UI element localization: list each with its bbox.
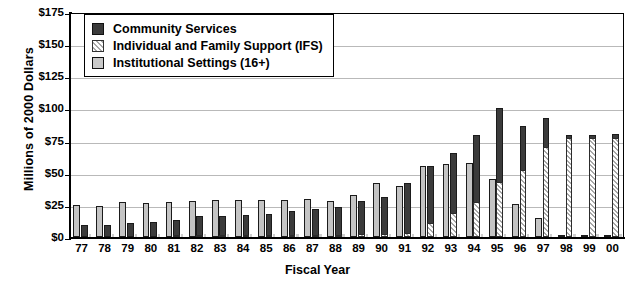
bar-institutional — [143, 203, 150, 237]
bar-institutional — [535, 218, 542, 237]
x-axis-tick-label: 81 — [162, 242, 185, 254]
bar-stack-community-ifs — [150, 222, 157, 237]
bar-spacer-marker — [227, 234, 229, 237]
x-axis-tick-label: 83 — [209, 242, 232, 254]
y-axis-tick-label: $50 — [8, 167, 64, 179]
x-axis-tick-label: 89 — [347, 242, 370, 254]
y-axis-tick — [65, 239, 71, 240]
x-axis-tick-label: 80 — [139, 242, 162, 254]
x-axis-tick-label: 79 — [116, 242, 139, 254]
bar-spacer-marker — [273, 234, 275, 237]
bar-stack-community-ifs — [404, 183, 411, 237]
bar-community-services — [404, 183, 411, 237]
x-axis-tick-label: 93 — [439, 242, 462, 254]
bar-group — [371, 14, 394, 237]
bar-institutional — [443, 164, 450, 237]
bar-stack-community-ifs — [312, 209, 319, 237]
x-axis-tick-label: 98 — [555, 242, 578, 254]
bar-ifs — [289, 235, 296, 237]
bar-stack-community-ifs — [427, 166, 434, 237]
bar-ifs — [566, 138, 573, 237]
bar-spacer-marker — [296, 234, 298, 237]
x-axis-tick-label: 85 — [255, 242, 278, 254]
bar-spacer-marker — [504, 234, 506, 237]
bar-institutional — [373, 183, 380, 237]
bar-stack-community-ifs — [496, 108, 503, 237]
bar-community-services — [381, 197, 388, 238]
bar-community-services — [127, 223, 134, 237]
bar-stack-community-ifs — [266, 214, 273, 237]
bar-ifs — [427, 223, 434, 237]
bar-institutional — [466, 163, 473, 237]
swatch-community-icon — [92, 23, 104, 35]
bar-stack-community-ifs — [127, 223, 134, 237]
bar-institutional — [258, 200, 265, 237]
bar-community-services — [266, 214, 273, 237]
bar-institutional — [327, 201, 334, 237]
bar-ifs — [589, 138, 596, 237]
bar-ifs — [612, 138, 619, 237]
y-axis-tick-label: $150 — [8, 38, 64, 50]
x-axis-tick-label: 96 — [509, 242, 532, 254]
bar-spacer-marker — [366, 234, 368, 237]
legend-label-community: Community Services — [113, 22, 237, 36]
bar-institutional — [119, 202, 126, 237]
bar-stack-community-ifs — [104, 225, 111, 237]
legend: Community Services Individual and Family… — [84, 14, 334, 77]
bar-ifs — [312, 235, 319, 237]
legend-label-ifs: Individual and Family Support (IFS) — [113, 39, 323, 53]
legend-item-ifs: Individual and Family Support (IFS) — [92, 37, 323, 54]
bar-ifs — [404, 233, 411, 238]
bar-group — [348, 14, 371, 237]
x-axis-tick-label: 88 — [324, 242, 347, 254]
bar-stack-community-ifs — [566, 135, 573, 237]
bar-stack-community-ifs — [243, 215, 250, 237]
bar-spacer-marker — [550, 234, 552, 237]
x-axis-tick-label: 77 — [70, 242, 93, 254]
bar-ifs — [543, 147, 550, 237]
bar-institutional — [604, 235, 611, 237]
bar-spacer-marker — [158, 234, 160, 237]
bar-institutional — [189, 201, 196, 237]
bar-institutional — [396, 186, 403, 237]
bar-group — [394, 14, 417, 237]
bar-ifs — [381, 234, 388, 237]
bar-ifs — [173, 235, 180, 237]
bar-spacer-marker — [389, 234, 391, 237]
bar-chart: Millions of 2000 Dollars $175$150$125$10… — [0, 0, 635, 288]
x-axis-tick-label: 94 — [462, 242, 485, 254]
legend-item-institutional: Institutional Settings (16+) — [92, 54, 323, 71]
bar-institutional — [489, 179, 496, 237]
legend-label-institutional: Institutional Settings (16+) — [113, 56, 270, 70]
bar-spacer-marker — [527, 234, 529, 237]
y-axis-tick-label: $100 — [8, 102, 64, 114]
bar-spacer-marker — [135, 234, 137, 237]
bar-ifs — [358, 234, 365, 237]
bar-spacer-marker — [596, 234, 598, 237]
bar-spacer-marker — [573, 234, 575, 237]
bar-institutional — [420, 166, 427, 237]
bar-community-services — [358, 201, 365, 237]
bar-spacer-marker — [619, 234, 621, 237]
bar-stack-community-ifs — [219, 216, 226, 237]
bar-institutional — [512, 204, 519, 237]
bar-ifs — [496, 182, 503, 237]
y-axis-tick-label: $75 — [8, 135, 64, 147]
bar-institutional — [581, 235, 588, 237]
bar-stack-community-ifs — [450, 153, 457, 237]
bar-ifs — [266, 235, 273, 237]
bar-group — [417, 14, 440, 237]
bar-institutional — [166, 202, 173, 237]
bar-stack-community-ifs — [381, 197, 388, 238]
bar-stack-community-ifs — [589, 135, 596, 237]
legend-item-community: Community Services — [92, 20, 323, 37]
bar-ifs — [243, 235, 250, 237]
bar-spacer-marker — [250, 234, 252, 237]
bar-institutional — [558, 235, 565, 237]
swatch-ifs-icon — [92, 40, 104, 52]
bar-spacer-marker — [181, 234, 183, 237]
bar-group — [602, 14, 625, 237]
bar-community-services — [289, 211, 296, 237]
bar-community-services — [219, 216, 226, 237]
bar-institutional — [73, 205, 80, 237]
